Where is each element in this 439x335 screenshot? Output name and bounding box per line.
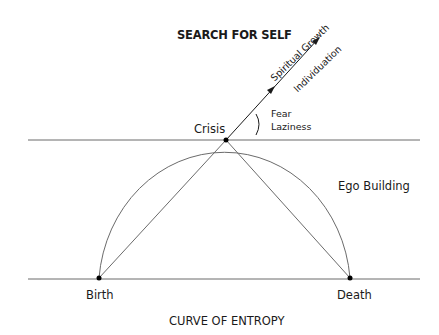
birth-to-crisis-line [99,140,226,278]
fear-label: Fear [271,109,292,119]
diagram-caption: CURVE OF ENTROPY [169,316,285,328]
death-dot [348,276,353,281]
arrowhead-mid-icon [267,86,275,94]
laziness-label: Laziness [271,122,312,132]
diagram-title: SEARCH FOR SELF [177,30,292,42]
life-arc [99,152,350,278]
angle-arc-icon [256,114,259,135]
birth-label: Birth [86,290,114,302]
ego-building-label: Ego Building [338,181,410,193]
diagram-canvas [0,0,439,335]
crisis-label: Crisis [194,124,225,136]
crisis-dot [224,138,229,143]
birth-dot [97,276,102,281]
death-to-crisis-line [226,140,350,278]
death-label: Death [337,290,372,302]
